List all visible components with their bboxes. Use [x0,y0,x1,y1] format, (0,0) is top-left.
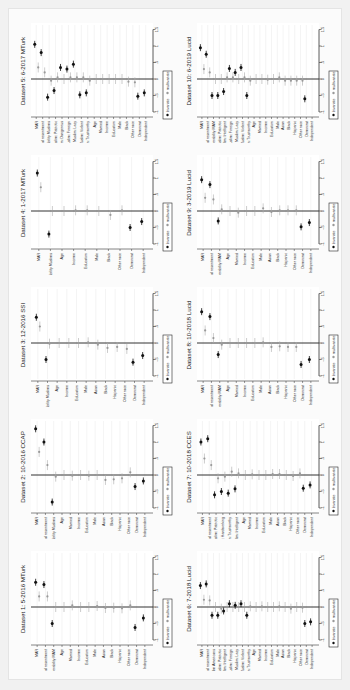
svg-text:MAR: MAR [201,517,205,525]
svg-text:Income: Income [77,517,81,529]
svg-text:Favorability MAM: Favorability MAM [218,385,222,407]
svg-text:Male: Male [118,121,122,129]
svg-text:Other race: Other race [127,517,131,534]
svg-text:0: 0 [320,77,325,80]
svg-text:Racial resentment: Racial resentment [41,121,45,143]
svg-text:Democrat: Democrat [305,121,309,137]
svg-text:Asian: Asian [268,385,272,394]
svg-text:.5: .5 [154,60,159,64]
svg-text:multivariate: multivariate [332,600,336,618]
svg-text:Asian: Asian [281,121,285,130]
svg-text:-.5: -.5 [154,356,159,361]
svg-text:Income: Income [243,385,247,397]
svg-text:Muslim: Violent: Muslim: Violent [80,121,84,143]
svg-text:Hispanic: Hispanic [118,649,122,663]
svg-text:0: 0 [154,77,159,80]
svg-text:bivariate: bivariate [166,626,170,640]
svg-text:Male: Male [93,517,97,525]
svg-text:Muslim: Lazy: Muslim: Lazy [235,121,239,142]
svg-text:Income: Income [255,517,259,529]
svg-text:Age: Age [242,517,246,523]
svg-text:Hispanic: Hispanic [284,385,288,399]
svg-text:.5: .5 [320,588,325,592]
coef-plot-panel: -1-.50.511.5MARRacial resentmentFavorabi… [13,539,178,671]
svg-text:1: 1 [320,440,325,443]
svg-text:Male: Male [276,121,280,129]
svg-text:Married: Married [235,253,239,265]
svg-text:Dataset 2: 10-2016 CCAP: Dataset 2: 10-2016 CCAP [19,431,26,503]
svg-text:Muslim: Violent: Muslim: Violent [241,121,245,143]
svg-text:Muslim: Lazy: Muslim: Lazy [73,121,77,142]
svg-text:Income: Income [65,385,69,397]
svg-text:-1: -1 [320,241,325,245]
svg-text:Income: Income [72,253,76,265]
svg-text:MAR: MAR [201,385,205,393]
svg-text:-1: -1 [154,241,159,245]
svg-text:0: 0 [320,209,325,212]
svg-text:Racial resentment: Racial resentment [44,649,48,671]
svg-text:Muslim: Dangerous: Muslim: Dangerous [60,121,64,143]
svg-text:Education: Education [75,385,79,401]
svg-text:.5: .5 [154,456,159,460]
svg-text:1.5: 1.5 [320,422,325,428]
svg-text:Married: Married [99,121,103,133]
svg-text:Favorability MAM: Favorability MAM [218,253,222,275]
svg-text:Dataset 3: 12-2016 SSI: Dataset 3: 12-2016 SSI [19,303,26,368]
svg-text:Racial resentment: Racial resentment [44,517,48,539]
svg-text:-1: -1 [320,505,325,509]
svg-text:Racial resentment: Racial resentment [206,649,210,671]
svg-text:Asian: Asian [281,649,285,658]
svg-text:Other race: Other race [131,121,135,138]
svg-text:0: 0 [154,473,159,476]
coef-plot-panel: -1-.50.511.5MARRacial resentmentFavorabi… [179,539,344,671]
svg-text:Muslim: Intelligent: Muslim: Intelligent [235,517,239,539]
svg-text:Male: Male [269,517,273,525]
svg-text:Independent: Independent [142,253,146,273]
svg-text:MAR: MAR [35,649,39,657]
svg-text:Other race: Other race [293,385,297,402]
svg-text:.5: .5 [320,456,325,460]
svg-text:Independent: Independent [143,517,147,537]
svg-text:Black: Black [125,121,129,130]
svg-text:Racial resentment: Racial resentment [210,253,214,275]
svg-text:multivariate: multivariate [166,336,170,354]
svg-text:1.5: 1.5 [154,554,159,560]
svg-text:Other race: Other race [296,517,300,534]
coef-plot-panel: -1-.50.511.5MARRacial resentmentFavorabi… [13,407,178,539]
svg-text:Dataset 9: 3-2019 Lucid: Dataset 9: 3-2019 Lucid [185,170,192,236]
svg-text:Democrat: Democrat [303,517,307,533]
svg-text:Married: Married [69,517,73,529]
svg-text:Education: Education [270,649,274,665]
coef-plot-panel: -1-.50.511.5MARRacial resentmentFavorabi… [13,11,178,143]
svg-text:.5: .5 [320,192,325,196]
svg-text:Black: Black [283,517,287,526]
svg-text:Democrat: Democrat [305,649,309,665]
svg-text:Black: Black [287,121,291,130]
svg-text:MAR: MAR [201,253,205,261]
svg-text:Education: Education [251,253,255,269]
svg-text:Favorability Muslim Americans: Favorability Muslim Americans [212,649,216,671]
svg-text:0: 0 [320,605,325,608]
svg-text:multivariate: multivariate [166,600,170,618]
svg-text:.5: .5 [320,60,325,64]
svg-text:0: 0 [154,341,159,344]
svg-text:Age: Age [60,517,64,523]
svg-text:-1: -1 [320,637,325,641]
svg-text:-.5: -.5 [320,224,325,229]
svg-text:1: 1 [154,176,159,179]
svg-text:Income: Income [264,121,268,133]
svg-text:Married: Married [69,649,73,661]
svg-text:Income: Income [77,649,81,661]
svg-text:-.5: -.5 [154,92,159,97]
svg-text:Other race: Other race [293,253,297,270]
svg-text:Education: Education [262,517,266,533]
svg-text:Dataset 6: 7-2018 Lucid: Dataset 6: 7-2018 Lucid [185,566,192,632]
svg-text:-.5: -.5 [154,224,159,229]
coef-plot-panel: -1-.50.511.5MARRacial resentmentFavorabi… [179,275,344,407]
svg-text:.5: .5 [320,324,325,328]
svg-text:Black: Black [110,517,114,526]
svg-text:Male: Male [259,385,263,393]
svg-text:Independent: Independent [144,121,148,141]
svg-text:Muslim: Patriotic: Muslim: Patriotic [214,517,218,539]
svg-text:Black: Black [287,649,291,658]
